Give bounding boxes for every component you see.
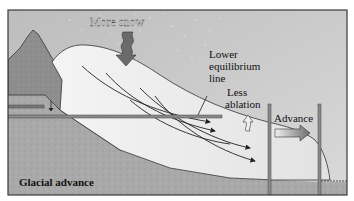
advance-label: Advance bbox=[274, 112, 313, 124]
old-terminus-stake bbox=[268, 104, 271, 195]
equilibrium-line-bar bbox=[8, 115, 222, 118]
less-ablation-line-1: Less bbox=[227, 86, 247, 98]
more-snow-label: More snow bbox=[90, 15, 145, 29]
equilibrium-label-line-1: Lower bbox=[209, 48, 238, 60]
caption-label: Glacial advance bbox=[19, 176, 94, 188]
less-ablation-line-2: ablation bbox=[225, 98, 261, 110]
old-level-bar bbox=[8, 105, 44, 108]
equilibrium-label-line-3: line bbox=[209, 72, 226, 84]
new-terminus-stake bbox=[318, 104, 321, 195]
glacial-advance-diagram: More snow Lower equilibrium line Less ab… bbox=[0, 0, 354, 201]
equilibrium-label-line-2: equilibrium bbox=[209, 60, 261, 72]
